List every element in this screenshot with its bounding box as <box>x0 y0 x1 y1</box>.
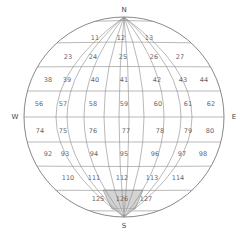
cell-label: 78 <box>156 127 164 135</box>
cell-label: 58 <box>89 100 97 108</box>
cell-label: 61 <box>184 100 192 108</box>
compass-west: W <box>12 113 19 121</box>
cell-label: 94 <box>90 150 98 158</box>
cell-label: 75 <box>59 127 67 135</box>
cell-label: 98 <box>199 150 207 158</box>
compass-south: S <box>122 222 127 230</box>
cell-label: 110 <box>62 174 74 182</box>
cell-label: 95 <box>120 150 128 158</box>
cell-label: 26 <box>150 53 158 61</box>
cell-label: 39 <box>63 76 71 84</box>
cell-label: 114 <box>172 174 184 182</box>
cell-label: 43 <box>179 76 187 84</box>
cell-label: 57 <box>59 100 67 108</box>
cell-label: 62 <box>207 100 215 108</box>
cell-label: 42 <box>153 76 161 84</box>
cell-label: 23 <box>64 53 72 61</box>
globe-grid-diagram: N S W E 11 12 13 23 24 25 26 27 38 39 40… <box>0 0 249 233</box>
cell-label: 76 <box>89 127 97 135</box>
cell-label: 60 <box>154 100 162 108</box>
cell-label: 97 <box>178 150 186 158</box>
cell-label: 80 <box>206 127 214 135</box>
cell-label: 93 <box>61 150 69 158</box>
cell-label: 24 <box>89 53 97 61</box>
cell-label: 11 <box>91 34 99 42</box>
cell-label: 113 <box>146 174 158 182</box>
cell-label: 112 <box>116 174 128 182</box>
cell-label: 92 <box>44 150 52 158</box>
cell-label: 41 <box>120 76 128 84</box>
compass-north: N <box>121 6 126 14</box>
cell-label-highlighted: 126 <box>116 195 128 203</box>
cell-label: 127 <box>140 195 152 203</box>
cell-label: 13 <box>145 34 153 42</box>
cell-label: 77 <box>122 127 130 135</box>
compass-east: E <box>232 113 236 121</box>
cell-label: 56 <box>35 100 43 108</box>
cell-label: 74 <box>36 127 44 135</box>
cell-label: 27 <box>176 53 184 61</box>
cell-label: 111 <box>88 174 100 182</box>
cell-label: 59 <box>120 100 128 108</box>
cell-label: 79 <box>184 127 192 135</box>
cell-label: 40 <box>91 76 99 84</box>
cell-label: 44 <box>200 76 208 84</box>
cell-label: 125 <box>92 195 104 203</box>
cell-label: 25 <box>119 53 127 61</box>
cell-label: 96 <box>151 150 159 158</box>
cell-label: 12 <box>117 34 125 42</box>
cell-label: 38 <box>44 76 52 84</box>
